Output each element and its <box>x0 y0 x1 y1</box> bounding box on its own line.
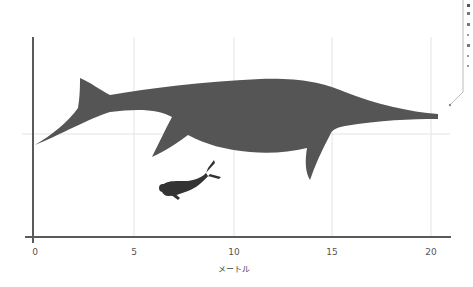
annotation-pointer-dot <box>449 104 451 106</box>
scale-diagram <box>0 0 473 287</box>
x-tick-0: 0 <box>32 247 38 257</box>
x-tick-10: 10 <box>228 247 239 257</box>
truncated-annotation-text <box>467 2 473 82</box>
x-axis-title: メートル <box>218 263 250 274</box>
annotation-leader-line <box>451 0 463 104</box>
x-tick-20: 20 <box>425 247 436 257</box>
x-tick-15: 15 <box>326 247 337 257</box>
diver-silhouette <box>159 160 221 200</box>
ichthyosaur-silhouette <box>35 78 438 180</box>
x-tick-5: 5 <box>131 247 137 257</box>
